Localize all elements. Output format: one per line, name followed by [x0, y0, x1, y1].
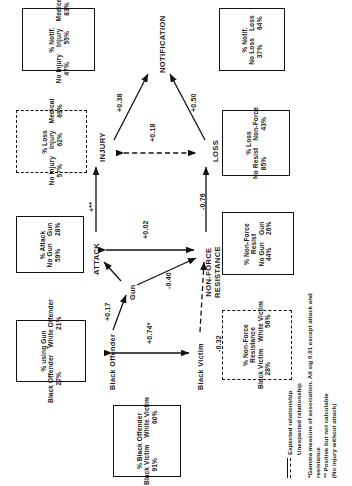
coef-attack-injury: +**: [88, 202, 95, 212]
edge-blackoffender-gun: [113, 295, 126, 330]
node-gun: Gun: [128, 285, 137, 300]
legend: Expected relationship Unexpected relatio…: [286, 282, 350, 478]
box-pair: Loss 64%: [248, 15, 263, 31]
coef-gun-nonforce: -0.40: [165, 272, 172, 289]
box-loss-by-injury: % Loss No Injury 57% Injury 62% Medical …: [16, 110, 87, 173]
box-header-2: Resistance: [250, 301, 257, 389]
node-black-victim: Black Victim: [196, 343, 205, 390]
legend-dashed-label: Unexpected relationship: [295, 383, 303, 455]
box-pair: Gun 26%: [258, 221, 273, 235]
box-pair: White Victim 60%: [143, 397, 158, 438]
box-header: % Black Offender: [136, 397, 143, 485]
box-header: % Notif.: [241, 15, 248, 65]
legend-note-gamma: *Gamma measure of association. All sig 0…: [306, 282, 322, 478]
legend-note-positive: ** Positive but not calculable: [322, 282, 330, 478]
node-nonforce-resistance: NON-FORCE RESISTANCE: [204, 246, 222, 298]
box-pair: No Resist 85%: [252, 148, 267, 179]
box-header-2: Resist: [251, 221, 258, 266]
node-loss: LOSS: [211, 140, 220, 162]
coef-injury-notification: +0.38: [116, 93, 123, 112]
node-notification: NOTIFICATION: [158, 15, 167, 73]
box-blackoffender-by-victim-race: % Black Offender Black Victim 91% White …: [113, 405, 181, 477]
coef-loss-notification: +0.50: [190, 93, 197, 112]
legend-solid-line-icon: [287, 458, 288, 478]
box-pair: White Offender 21%: [47, 299, 62, 348]
coef-nonforce-loss: -0.76: [199, 193, 206, 210]
box-pair: Gun 28%: [46, 222, 61, 236]
legend-dashed-line-icon: [290, 458, 291, 478]
coef-injury-loss: +0.18: [149, 123, 156, 142]
legend-solid-label: Expected relationship: [286, 383, 294, 455]
coef-attack-nonforce: +0.02: [142, 220, 149, 239]
box-pair: No Gun 44%: [258, 242, 273, 266]
box-gun-by-offender-race: % using Gun Black Offender 27% White Off…: [16, 320, 86, 382]
box-pair: Black Victim 28%: [257, 349, 272, 389]
legend-note-noinjury: (No injury without attack): [330, 282, 338, 478]
coef-blackoffender-gun: +0.17: [104, 302, 111, 321]
edge-gun-attack: [104, 262, 121, 281]
coef-blackvictim-nonforce: -0.32: [215, 335, 222, 352]
box-header: % Notif.: [47, 0, 54, 83]
edge-loss-notification: [170, 74, 205, 140]
box-pair: No Gun 59%: [46, 243, 61, 267]
box-header: % using Gun: [40, 299, 47, 403]
box-nonforce-by-gun: % Non-Force Resist No Gun 44% Gun 26%: [222, 212, 294, 275]
box-notif-by-loss: % Notif. No Loss 37% Loss 64%: [219, 8, 285, 71]
box-pair: Medical 69%: [48, 98, 63, 123]
box-loss-by-resistance: % Loss No Resist 85% Non-Force 43%: [222, 110, 290, 176]
node-black-offender: Black Offender: [108, 334, 117, 390]
node-attack: ATTACK: [92, 243, 101, 275]
box-attack-by-gun: % Attack No Gun 59% Gun 28%: [16, 216, 84, 273]
box-pair: Black Offender 27%: [47, 355, 62, 403]
coef-blackoffender-blackvictim: +0.74*: [146, 322, 153, 344]
box-pair: Medical 83%: [55, 0, 70, 21]
box-pair: Injury 62%: [48, 130, 63, 149]
node-injury: INJURY: [98, 132, 107, 162]
box-header: % Loss: [245, 107, 252, 179]
box-header: % Non-Force: [242, 301, 249, 389]
box-header: % Non-Force: [243, 221, 250, 266]
box-pair: Non-Force 43%: [252, 107, 267, 141]
box-pair: Injury 55%: [55, 28, 70, 47]
box-notif-by-injury: % Notif. No Injury 47% Injury 55% Medica…: [22, 8, 95, 71]
box-nonforce-by-victim-race: % Non-Force Resistance Black Victim 28% …: [222, 310, 292, 380]
box-pair: Black Victim 91%: [143, 445, 158, 485]
box-header: % Loss: [40, 98, 47, 185]
path-diagram: NOTIFICATION INJURY LOSS ATTACK NON-FORC…: [0, 0, 352, 486]
box-pair: White Victim 56%: [257, 301, 272, 342]
box-pair: No Loss 37%: [248, 38, 263, 65]
box-pair: No Injury 57%: [48, 155, 63, 184]
box-header: % Attack: [39, 222, 46, 267]
box-pair: No Injury 47%: [55, 53, 70, 82]
